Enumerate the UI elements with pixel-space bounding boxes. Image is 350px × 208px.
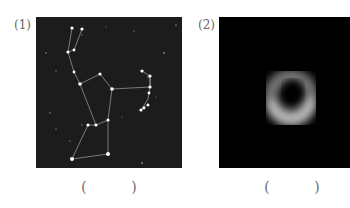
figure-2-label: (2) [198,18,215,32]
black-hole-graphic [219,17,350,168]
answer-blank-2-close: ) [314,178,320,196]
answer-blank-2-open: ( [264,178,270,196]
constellation-graphic [36,17,182,168]
figure-1-label: (1) [14,18,31,32]
answer-blank-1-close: ) [131,178,137,196]
constellation-image [36,17,182,168]
answer-blank-1-open: ( [81,178,87,196]
black-hole-image [219,17,350,168]
